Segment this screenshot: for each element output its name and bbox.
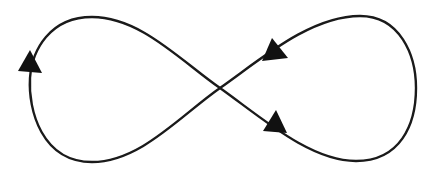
right-loop-curve bbox=[220, 16, 416, 161]
left-loop-curve bbox=[30, 17, 220, 162]
figure-eight-svg bbox=[0, 0, 438, 174]
figure-eight-diagram: Infinity / figure-eight closed loop with… bbox=[0, 0, 438, 174]
arrow-up-icon bbox=[18, 50, 42, 73]
arrow-down-left-icon bbox=[262, 38, 288, 61]
